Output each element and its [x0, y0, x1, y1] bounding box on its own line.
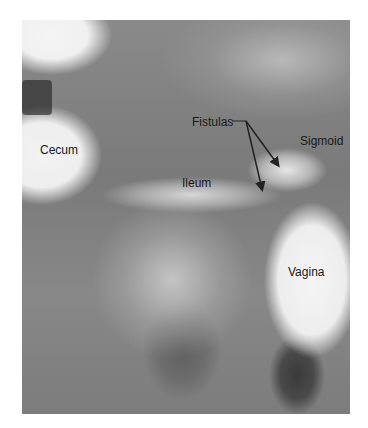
dark-region: [22, 80, 52, 115]
radiograph-image: [22, 20, 350, 414]
label-ileum: Ileum: [182, 176, 211, 190]
label-vagina: Vagina: [288, 265, 324, 279]
label-cecum: Cecum: [40, 143, 78, 157]
label-sigmoid: Sigmoid: [300, 134, 343, 148]
label-fistulas: Fistulas: [192, 115, 233, 129]
